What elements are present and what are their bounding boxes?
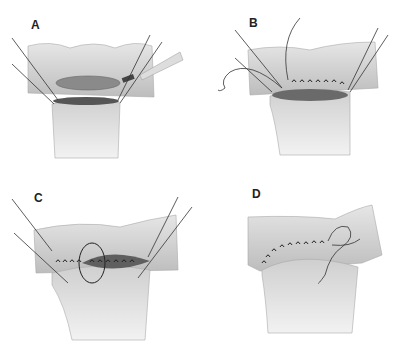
panel-a: A bbox=[0, 0, 200, 175]
panel-c: C bbox=[0, 175, 200, 350]
panel-d-illustration bbox=[200, 175, 401, 351]
panel-b-illustration bbox=[200, 0, 401, 175]
panel-b: B bbox=[200, 0, 400, 175]
panel-c-illustration bbox=[0, 175, 200, 351]
panel-d: D bbox=[200, 175, 400, 350]
panel-a-illustration bbox=[0, 0, 200, 175]
